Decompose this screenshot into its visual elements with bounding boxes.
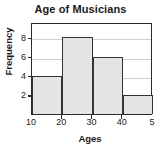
y-tick-label: 2 [6, 91, 26, 100]
x-tick-label: 5 [140, 117, 161, 127]
chart-title: Age of Musicians [0, 3, 161, 15]
bar [93, 57, 123, 115]
x-tick-label: 10 [19, 117, 43, 127]
plot-inner [32, 24, 151, 114]
bar [123, 95, 153, 114]
y-tick-label: 8 [6, 34, 26, 43]
x-axis-title: Ages [28, 133, 152, 144]
x-tick-mark [121, 115, 122, 119]
y-tick-label: 6 [6, 53, 26, 62]
bar [62, 37, 92, 114]
x-tick-mark [91, 115, 92, 119]
x-tick-mark [61, 115, 62, 119]
histogram-screenshot: Age of Musicians Frequency Ages 2468 102… [0, 0, 161, 151]
bar [32, 76, 62, 114]
plot-area [31, 23, 152, 115]
y-tick-label: 4 [6, 72, 26, 81]
